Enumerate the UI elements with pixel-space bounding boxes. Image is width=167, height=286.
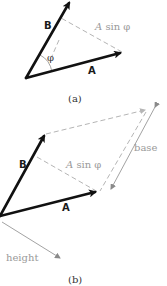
panel-a: B A A sin φ φ (a) [26,3,130,104]
projection-label: A sin φ [94,21,130,32]
vector-b-arrow [0,136,44,216]
cross-product-diagram: B A A sin φ φ (a) B A A sin φ base heigh… [0,0,167,286]
projection-fn: sin φ [102,21,130,32]
panel-b-caption: (b) [68,274,82,285]
projection-fn: sin φ [73,159,101,170]
parallelogram-top-dashed-edge [46,110,145,134]
vector-a-label: A [62,202,70,213]
vector-b-label: B [44,20,52,31]
projection-var: A [94,21,102,32]
panel-b: B A A sin φ base height (b) [0,107,157,285]
vector-b-arrow [26,3,69,78]
projection-var: A [65,159,73,170]
projection-label: A sin φ [65,159,101,170]
vector-a-arrow [0,192,95,216]
base-label: base [134,142,157,153]
height-label: height [6,252,38,263]
panel-a-caption: (a) [68,93,82,104]
vector-a-label: A [88,65,96,76]
angle-phi-label: φ [47,52,54,63]
vector-a-arrow [26,53,120,78]
vector-b-label: B [19,159,27,170]
